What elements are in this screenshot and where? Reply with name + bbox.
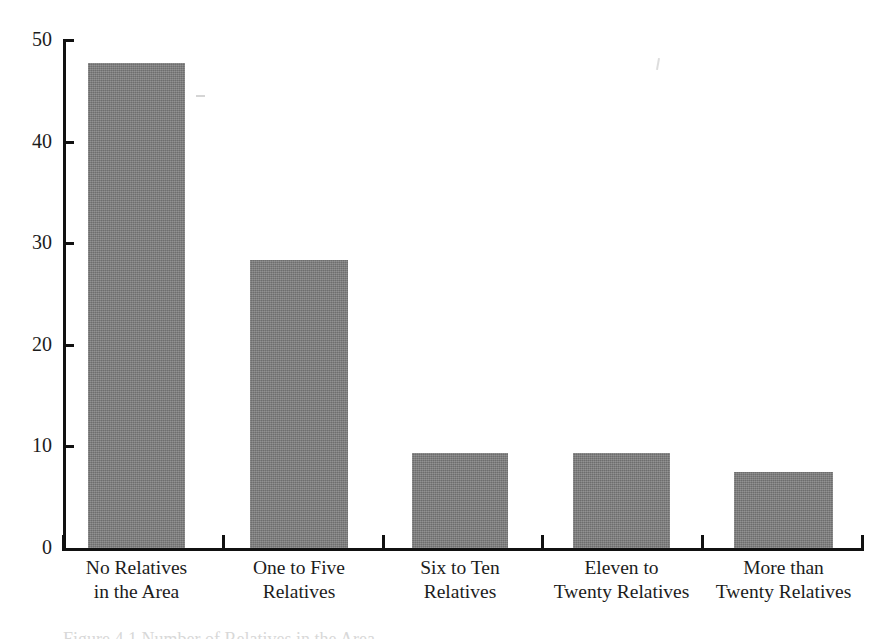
category-label-one-to-five-relatives: One to Five Relatives <box>209 556 389 604</box>
scan-speck-left <box>196 95 205 97</box>
bar-no-relatives-in-the-area <box>88 63 185 548</box>
category-label-eleven-to-twenty-relatives: Eleven to Twenty Relatives <box>532 556 712 604</box>
y-axis-tick-label-wrap: 40 <box>0 131 52 151</box>
x-axis-line <box>63 548 863 551</box>
y-axis-tick-label: 20 <box>8 334 52 354</box>
y-axis-tick-label-wrap: 50 <box>0 29 52 49</box>
y-axis-tick-label: 50 <box>8 29 52 49</box>
bar-six-to-ten-relatives <box>412 453 508 549</box>
category-label-no-relatives-in-the-area: No Relatives in the Area <box>47 556 227 604</box>
category-label-six-to-ten-relatives: Six to Ten Relatives <box>370 556 550 604</box>
figure-caption-clipped: Figure 4.1 Number of Relatives in the Ar… <box>63 629 463 639</box>
y-axis-tick-label-wrap: 30 <box>0 232 52 252</box>
y-axis-tick-label: 10 <box>8 435 52 455</box>
bar-more-than-twenty-relatives <box>734 472 833 548</box>
category-label-more-than-twenty-relatives: More than Twenty Relatives <box>694 556 874 604</box>
y-axis-tick-label: 40 <box>8 131 52 151</box>
y-axis-tick-label-wrap: 0 <box>0 537 52 557</box>
y-axis-tick-label-wrap: 10 <box>0 435 52 455</box>
bar-chart: 50403020100 No Relatives in the AreaOne … <box>0 0 891 639</box>
y-axis-tick-label: 0 <box>8 537 52 557</box>
bar-eleven-to-twenty-relatives <box>573 453 670 549</box>
y-axis-tick-label-wrap: 20 <box>0 334 52 354</box>
plot-area <box>63 40 862 548</box>
y-axis-tick-label: 30 <box>8 232 52 252</box>
bar-one-to-five-relatives <box>250 260 348 548</box>
